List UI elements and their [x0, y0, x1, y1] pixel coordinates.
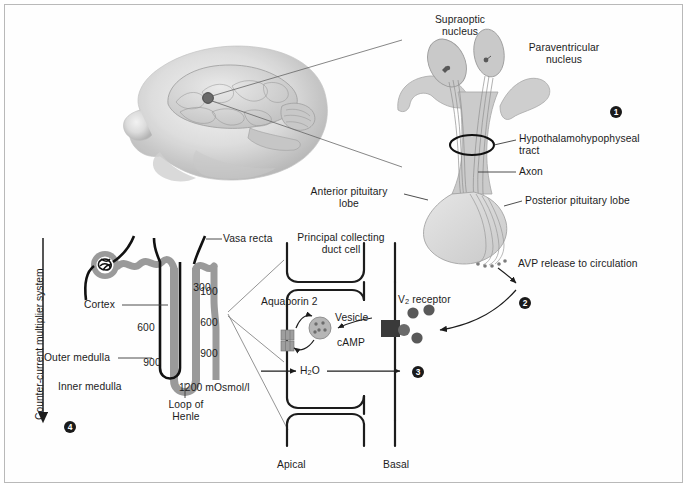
label-counter-current-system: Counter-current multiplier system — [34, 268, 45, 420]
proximal-tubule — [118, 260, 174, 268]
label-avp-release: AVP release to circulation — [518, 258, 678, 270]
osmolality-value: 900 — [139, 357, 165, 369]
avp-release-arrow — [498, 268, 516, 283]
osmolality-value: 900 — [196, 348, 222, 360]
label-aquaporin-2: Aquaporin 2 — [261, 296, 341, 308]
v2-receptor-text: V — [398, 294, 405, 305]
step-marker-1: 1 — [610, 106, 622, 118]
step-marker-3: 3 — [412, 366, 424, 378]
label-apical: Apical — [277, 459, 325, 471]
osmolality-value: 1200 mOsmol/l — [179, 382, 275, 394]
label-vesicle: Vesicle — [335, 312, 385, 324]
label-inner-medulla: Inner medulla — [58, 381, 138, 393]
label-cortex: Cortex — [84, 299, 128, 311]
water-h: H — [300, 365, 308, 376]
pituitary-marker-dot — [203, 93, 214, 104]
vasa-recta-right — [194, 236, 205, 264]
label-basal: Basal — [383, 459, 427, 471]
vesicle-shape — [309, 317, 331, 339]
head-illustration — [123, 46, 327, 181]
osmolality-value: 600 — [133, 322, 159, 334]
v2-receptor-suffix: receptor — [409, 294, 451, 305]
label-posterior-pituitary-lobe: Posterior pituitary lobe — [525, 195, 675, 207]
figure-canvas: 1 2 3 4 Supraoptic nucleus Paraventricul… — [0, 0, 689, 489]
label-anterior-pituitary-lobe: Anterior pituitary lobe — [296, 186, 402, 209]
label-v2-receptor: V2 receptor — [398, 294, 488, 308]
osmolality-value: 600 — [196, 317, 222, 329]
cell-zoom-wedge — [228, 260, 288, 430]
water-o: O — [312, 365, 320, 376]
label-vasa-recta: Vasa recta — [223, 233, 293, 245]
step-marker-4: 4 — [64, 421, 76, 433]
label-supraoptic-nucleus: Supraoptic nucleus — [405, 14, 515, 37]
label-loop-of-henle: Loop of Henle — [155, 399, 217, 422]
label-paraventricular-nucleus: Paraventricular nucleus — [500, 42, 628, 65]
v2-receptor-shape — [381, 320, 410, 337]
label-camp: cAMP — [337, 337, 377, 349]
step-marker-2: 2 — [519, 297, 531, 309]
osmolality-value: 100 — [196, 286, 222, 298]
label-axon: Axon — [519, 166, 579, 178]
label-principal-collecting-duct-cell: Principal collecting duct cell — [288, 232, 394, 255]
pituitary-gland — [424, 192, 507, 264]
label-water: H2O — [300, 365, 336, 379]
label-outer-medulla: Outer medulla — [44, 352, 124, 364]
label-hypothalamohypophyseal-tract: Hypothalamohypophyseal tract — [519, 133, 669, 156]
avp-molecules — [407, 304, 434, 343]
